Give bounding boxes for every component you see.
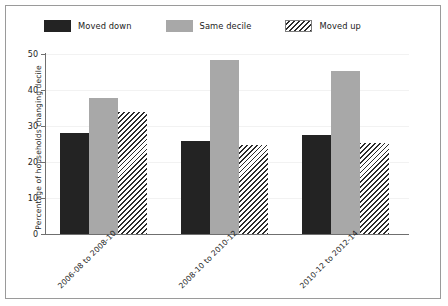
y-axis-tick-mark bbox=[41, 234, 46, 235]
bar-moved-down bbox=[181, 141, 210, 234]
y-axis-title: Percentage of households changing decile bbox=[34, 53, 43, 243]
y-axis-tick-label: 10 bbox=[17, 194, 38, 203]
x-axis-tick-label: 2006-08 to 2008-10 bbox=[56, 228, 118, 290]
bar-same-decile bbox=[89, 98, 118, 234]
bar-same-decile bbox=[331, 71, 360, 234]
bar-moved-up bbox=[360, 143, 389, 234]
bar-group bbox=[60, 54, 147, 234]
y-axis-tick-label: 30 bbox=[17, 122, 38, 131]
bar-moved-up bbox=[118, 112, 147, 234]
bar-moved-up bbox=[239, 145, 268, 234]
x-axis-tick-label: 2008-10 to 2010-12 bbox=[177, 228, 239, 290]
bar-same-decile bbox=[210, 60, 239, 234]
bar-group bbox=[302, 54, 389, 234]
y-axis-tick-label: 0 bbox=[17, 230, 38, 239]
bar-moved-down bbox=[60, 133, 89, 234]
y-axis-tick-label: 50 bbox=[17, 50, 38, 59]
x-axis-tick-label: 2010-12 to 2012-14 bbox=[298, 228, 360, 290]
bars-layer bbox=[46, 54, 409, 234]
y-axis-tick-label: 20 bbox=[17, 158, 38, 167]
chart-screenshot: Moved down Same decile Moved up Percenta… bbox=[0, 0, 448, 306]
bar-group bbox=[181, 54, 268, 234]
bar-moved-down bbox=[302, 135, 331, 234]
y-axis-tick-label: 40 bbox=[17, 86, 38, 95]
plot-area: Percentage of households changing decile… bbox=[0, 0, 448, 306]
